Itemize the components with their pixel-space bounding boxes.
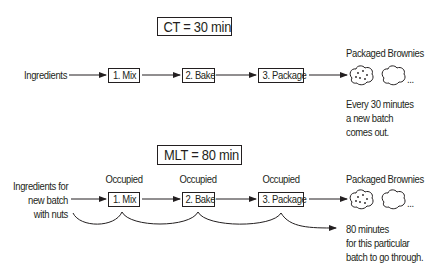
top-note-line: a new batch bbox=[346, 111, 414, 125]
bottom-step-package-label: 3. Package bbox=[263, 193, 307, 206]
lead-time-title-text: MLT = 80 min bbox=[164, 146, 239, 164]
top-note-line: Every 30 minutes bbox=[346, 97, 414, 111]
bottom-note-line: 80 minutes bbox=[346, 222, 423, 236]
bottom-step-mix-label: 1. Mix bbox=[112, 193, 135, 206]
top-step-package: 3. Package bbox=[258, 68, 304, 83]
top-step-mix: 1. Mix bbox=[108, 68, 140, 83]
brownie-icon-outline bbox=[382, 66, 405, 85]
bottom-input-line: new batch bbox=[13, 193, 68, 207]
bottom-input-label: Ingredients for new batch with nuts bbox=[4, 179, 68, 221]
bottom-step-bake: 2. Bake bbox=[182, 192, 215, 207]
bottom-step-mix: 1. Mix bbox=[108, 192, 140, 207]
bottom-output-label: Packaged Brownies bbox=[346, 173, 424, 186]
brownie-icon-outline-2 bbox=[382, 190, 405, 209]
bottom-step-package: 3. Package bbox=[258, 192, 304, 207]
brownie-icon-filled bbox=[350, 66, 373, 85]
top-output-label: Packaged Brownies bbox=[346, 47, 424, 60]
top-note: Every 30 minutes a new batch comes out. bbox=[346, 97, 425, 139]
bottom-input-line: Ingredients for bbox=[13, 179, 68, 193]
bottom-note: 80 minutes for this particular batch to … bbox=[346, 222, 436, 264]
top-input-label: Ingredients bbox=[24, 69, 67, 82]
brownie-icon-filled-2 bbox=[350, 190, 373, 209]
top-output-ellipsis: ... bbox=[407, 73, 414, 86]
top-step-package-label: 3. Package bbox=[263, 69, 307, 82]
top-note-line: comes out. bbox=[346, 125, 414, 139]
status-mix: Occupied bbox=[100, 173, 148, 186]
bottom-output-ellipsis: ... bbox=[407, 197, 414, 210]
lead-time-curve bbox=[73, 212, 336, 228]
top-step-mix-label: 1. Mix bbox=[112, 69, 135, 82]
cycle-time-title-text: CT = 30 min bbox=[163, 18, 231, 35]
bottom-step-bake-label: 2. Bake bbox=[185, 193, 215, 206]
cycle-time-title: CT = 30 min bbox=[157, 17, 232, 36]
bottom-note-line: for this particular bbox=[346, 236, 423, 250]
status-bake: Occupied bbox=[174, 173, 222, 186]
bottom-input-line: with nuts bbox=[13, 207, 68, 221]
top-step-bake-label: 2. Bake bbox=[185, 69, 215, 82]
bottom-note-line: batch to go through. bbox=[346, 250, 423, 264]
status-package: Occupied bbox=[257, 173, 305, 186]
lead-time-title: MLT = 80 min bbox=[157, 145, 242, 165]
top-step-bake: 2. Bake bbox=[182, 68, 215, 83]
